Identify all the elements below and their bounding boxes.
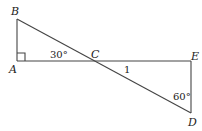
label-E: E <box>190 50 199 63</box>
label-C: C <box>91 48 100 61</box>
side-CD-label: 1 <box>124 64 130 75</box>
angle-CDE-label: 60° <box>173 91 191 102</box>
geometry-diagram: B A C E D 30° 1 60° <box>0 0 202 131</box>
angle-BCA-label: 30° <box>50 49 68 60</box>
label-A: A <box>8 63 17 76</box>
right-angle-marker-icon <box>17 53 25 61</box>
label-B: B <box>10 5 19 18</box>
segment-BD <box>17 19 191 113</box>
label-D: D <box>187 116 197 129</box>
